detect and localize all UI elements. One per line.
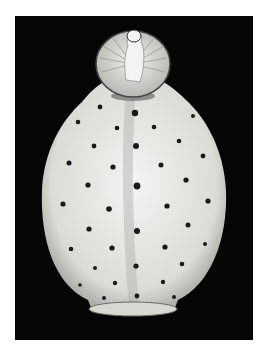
- snuff-bottle-illustration: [0, 0, 264, 348]
